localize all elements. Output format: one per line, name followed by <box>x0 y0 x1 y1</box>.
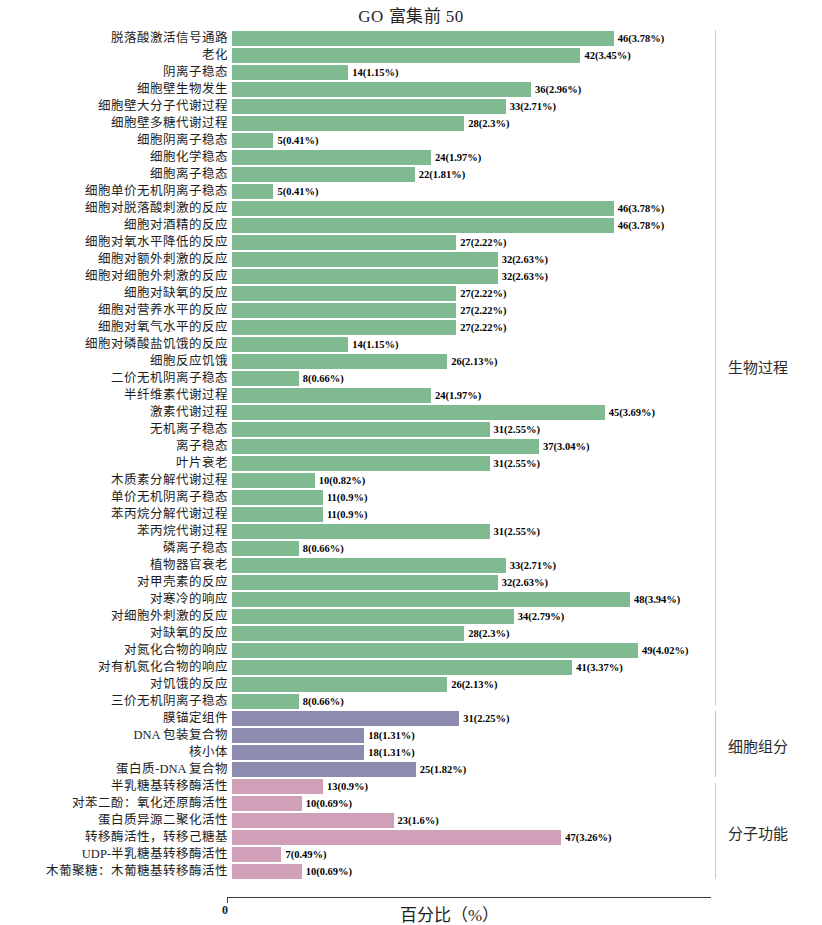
bar[interactable] <box>232 575 498 591</box>
bar-value-label: 25(1.82%) <box>417 763 468 776</box>
bar[interactable] <box>232 609 514 625</box>
bar[interactable] <box>232 150 431 166</box>
bar-row: 46(3.78%) <box>232 200 712 217</box>
category-label: 蛋白质-DNA 复合物 <box>0 761 228 778</box>
bar[interactable] <box>232 524 490 540</box>
category-label: 细胞壁多糖代谢过程 <box>0 115 228 132</box>
category-label: 细胞壁大分子代谢过程 <box>0 98 228 115</box>
bar-row: 8(0.66%) <box>232 370 712 387</box>
bracket-line-molecular-function <box>715 783 716 879</box>
bar[interactable] <box>232 286 456 302</box>
bar[interactable] <box>232 558 506 574</box>
bar[interactable] <box>232 541 299 557</box>
bar-value-label: 14(1.15%) <box>349 66 400 79</box>
bar[interactable] <box>232 354 447 370</box>
bar-row: 47(3.26%) <box>232 829 712 846</box>
bar[interactable] <box>232 422 490 438</box>
bar[interactable] <box>232 643 638 659</box>
bar-value-label: 28(2.3%) <box>465 117 511 130</box>
bar[interactable] <box>232 864 302 880</box>
bar[interactable] <box>232 48 580 64</box>
category-label: 对氮化合物的响应 <box>0 642 228 659</box>
bar[interactable] <box>232 694 299 710</box>
bar-row: 48(3.94%) <box>232 591 712 608</box>
bar-value-label: 31(2.55%) <box>491 423 542 436</box>
bar-value-label: 10(0.82%) <box>316 474 367 487</box>
category-label: 细胞化学稳态 <box>0 149 228 166</box>
bar-value-label: 28(2.3%) <box>465 627 511 640</box>
bar[interactable] <box>232 439 539 455</box>
bar[interactable] <box>232 456 490 472</box>
bar[interactable] <box>232 252 498 268</box>
bar[interactable] <box>232 235 456 251</box>
bar[interactable] <box>232 82 531 98</box>
bar[interactable] <box>232 167 415 183</box>
bar-value-label: 33(2.71%) <box>507 559 558 572</box>
bar-value-label: 33(2.71%) <box>507 100 558 113</box>
bar-value-label: 27(2.22%) <box>457 287 508 300</box>
bar-row: 24(1.97%) <box>232 149 712 166</box>
bar-value-label: 42(3.45%) <box>581 49 632 62</box>
category-label: 对缺氧的反应 <box>0 625 228 642</box>
category-label: 半纤维素代谢过程 <box>0 387 228 404</box>
bar[interactable] <box>232 99 506 115</box>
bar[interactable] <box>232 592 630 608</box>
bar-row: 41(3.37%) <box>232 659 712 676</box>
page-title: GO 富集前 50 <box>0 2 822 27</box>
bar[interactable] <box>232 371 299 387</box>
bar[interactable] <box>232 473 315 489</box>
bar[interactable] <box>232 779 323 795</box>
bar[interactable] <box>232 847 281 863</box>
bar-value-label: 31(2.25%) <box>460 712 511 725</box>
bar[interactable] <box>232 762 416 778</box>
bar[interactable] <box>232 728 364 744</box>
category-label: 对苯二酚：氧化还原酶活性 <box>0 795 228 812</box>
bar[interactable] <box>232 405 605 421</box>
bar-value-label: 26(2.13%) <box>448 678 499 691</box>
bar[interactable] <box>232 490 323 506</box>
category-label: 叶片衰老 <box>0 455 228 472</box>
bar[interactable] <box>232 388 431 404</box>
bracket-label-molecular-function: 分子功能 <box>728 822 788 843</box>
bar-value-label: 10(0.69%) <box>303 797 354 810</box>
bar[interactable] <box>232 218 614 234</box>
category-label: 细胞离子稳态 <box>0 166 228 183</box>
category-label: 细胞壁生物发生 <box>0 81 228 98</box>
bar-value-label: 10(0.69%) <box>303 865 354 878</box>
bracket-line-biological-process <box>715 30 716 706</box>
bar-row: 11(0.9%) <box>232 489 712 506</box>
category-label: 磷离子稳态 <box>0 540 228 557</box>
bar[interactable] <box>232 745 364 761</box>
bar[interactable] <box>232 660 572 676</box>
bar[interactable] <box>232 677 447 693</box>
category-label: 蛋白质异源二聚化活性 <box>0 812 228 829</box>
bar[interactable] <box>232 184 273 200</box>
bar[interactable] <box>232 65 348 81</box>
category-label: 细胞对磷酸盐饥饿的反应 <box>0 336 228 353</box>
bar[interactable] <box>232 813 394 829</box>
bar-value-label: 8(0.66%) <box>300 695 346 708</box>
bar-value-label: 45(3.69%) <box>606 406 657 419</box>
bar-row: 5(0.41%) <box>232 183 712 200</box>
category-label: 细胞对营养水平的反应 <box>0 302 228 319</box>
bar[interactable] <box>232 796 302 812</box>
bar-row: 31(2.55%) <box>232 523 712 540</box>
bar[interactable] <box>232 337 348 353</box>
bar[interactable] <box>232 320 456 336</box>
category-label: 脱落酸激活信号通路 <box>0 30 228 47</box>
bar[interactable] <box>232 201 614 217</box>
bar-value-label: 24(1.97%) <box>432 389 483 402</box>
bar-row: 31(2.55%) <box>232 421 712 438</box>
bar[interactable] <box>232 303 456 319</box>
bar[interactable] <box>232 830 561 846</box>
bar[interactable] <box>232 133 273 149</box>
bar[interactable] <box>232 711 459 727</box>
bar[interactable] <box>232 269 498 285</box>
bar[interactable] <box>232 626 464 642</box>
category-label: 苯丙烷分解代谢过程 <box>0 506 228 523</box>
bar[interactable] <box>232 116 464 132</box>
category-label: 细胞对脱落酸刺激的反应 <box>0 200 228 217</box>
bar[interactable] <box>232 507 323 523</box>
bar[interactable] <box>232 31 614 47</box>
category-label: 植物器官衰老 <box>0 557 228 574</box>
